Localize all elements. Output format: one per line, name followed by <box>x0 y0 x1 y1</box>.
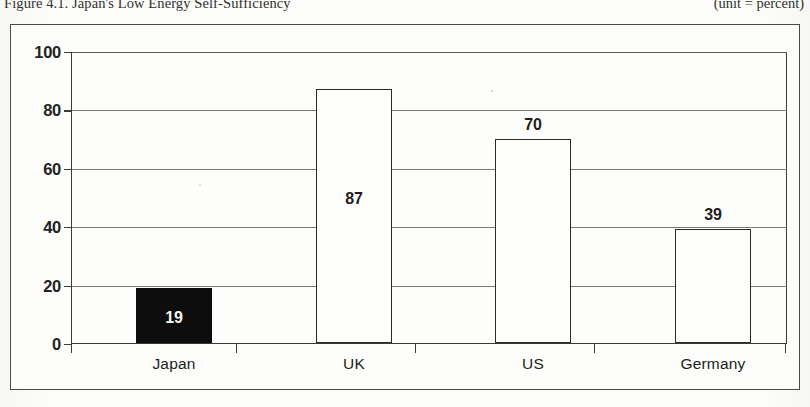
category-label-uk: UK <box>343 355 365 373</box>
bar-us[interactable]: 70 <box>495 139 571 343</box>
document-page: Figure 4.1. Japan's Low Energy Self-Suff… <box>0 0 810 407</box>
bar-germany[interactable]: 39 <box>675 229 751 343</box>
plot-right-border <box>786 52 787 344</box>
bar-value-us: 70 <box>482 116 584 134</box>
category-label-us: US <box>522 355 544 373</box>
x-tick-start <box>71 343 72 353</box>
figure-title: Figure 4.1. Japan's Low Energy Self-Suff… <box>4 0 291 12</box>
gridline-80 <box>71 110 787 111</box>
x-tick-1 <box>236 343 237 353</box>
x-tick-2 <box>415 343 416 353</box>
bar-japan[interactable]: 19 <box>136 288 212 344</box>
scan-speck <box>199 184 201 186</box>
y-tick-label-60: 60 <box>43 159 61 178</box>
y-tick-label-100: 100 <box>34 43 61 62</box>
gridline-60 <box>71 169 787 170</box>
chart-plot-area: 100 80 60 40 20 0 <box>71 52 787 344</box>
y-tick-label-40: 40 <box>43 218 61 237</box>
bar-value-japan: 19 <box>137 309 211 327</box>
x-tick-end <box>785 343 786 353</box>
figure-unit-note: (unit = percent) <box>714 0 804 12</box>
gridline-100 <box>71 52 787 53</box>
y-tick-label-0: 0 <box>52 335 61 354</box>
category-label-japan: Japan <box>152 355 195 373</box>
x-tick-3 <box>594 343 595 353</box>
bar-uk[interactable]: 87 <box>316 89 392 343</box>
y-axis-line <box>71 52 72 344</box>
scan-speck <box>491 90 493 92</box>
gridline-40 <box>71 227 787 228</box>
figure-caption-row: Figure 4.1. Japan's Low Energy Self-Suff… <box>0 0 810 17</box>
figure-border-box: 100 80 60 40 20 0 <box>10 24 800 390</box>
bar-value-uk: 87 <box>317 190 391 208</box>
y-tick-label-20: 20 <box>43 276 61 295</box>
y-tick-label-80: 80 <box>43 101 61 120</box>
bar-value-germany: 39 <box>662 206 764 224</box>
category-label-germany: Germany <box>680 355 745 373</box>
